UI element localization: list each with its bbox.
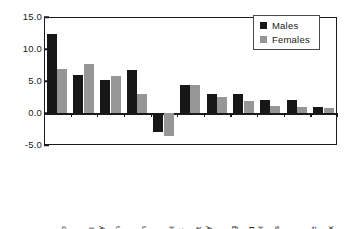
x-tick-label: Tobacco bbox=[60, 226, 69, 229]
x-tick-label: Illicit drugs bbox=[273, 226, 282, 229]
x-tick-label: Alcohol harm bbox=[140, 226, 149, 229]
y-tick-mark bbox=[44, 16, 49, 18]
bar-males bbox=[260, 100, 270, 113]
legend-item-females: Females bbox=[260, 35, 310, 45]
bar-females bbox=[57, 69, 67, 113]
y-axis: -5.00.05.010.015.0 bbox=[0, 0, 42, 229]
bar-males bbox=[73, 75, 83, 113]
bar-males bbox=[47, 34, 57, 113]
bar-females bbox=[137, 94, 147, 113]
bar-males bbox=[153, 113, 163, 132]
bar-males bbox=[180, 85, 190, 113]
x-tick-mark bbox=[177, 113, 178, 117]
bar-males bbox=[127, 70, 137, 113]
bar-females bbox=[190, 85, 200, 113]
bar-females bbox=[297, 107, 307, 113]
y-tick-label: 5.0 bbox=[6, 76, 42, 86]
bar-females bbox=[164, 113, 174, 136]
x-axis-labels: TobaccoPhysicalinactivityHypertensionAlc… bbox=[44, 150, 337, 229]
x-tick-label: Occupationalillness/disease bbox=[301, 226, 318, 229]
x-tick-mark bbox=[284, 113, 285, 117]
x-tick-mark bbox=[151, 113, 152, 117]
bar-chart: -5.00.05.010.015.0 TobaccoPhysicalinacti… bbox=[0, 0, 347, 229]
bar-group bbox=[177, 17, 204, 145]
legend-label-males: Males bbox=[272, 21, 298, 31]
x-tick-mark bbox=[97, 113, 98, 117]
x-tick-mark bbox=[230, 113, 231, 117]
x-tick-label: High bloodcholesterol bbox=[248, 226, 265, 229]
y-tick-label: 10.0 bbox=[6, 44, 42, 54]
bar-group bbox=[97, 17, 124, 145]
bar-females bbox=[84, 64, 94, 113]
x-tick-label: Overweightand obesity bbox=[195, 226, 212, 229]
legend-label-females: Females bbox=[272, 35, 310, 45]
bar-group bbox=[71, 17, 98, 145]
bar-group bbox=[151, 17, 178, 145]
y-tick-label: -5.0 bbox=[6, 140, 42, 150]
x-tick-mark bbox=[124, 113, 125, 117]
bar-males bbox=[233, 94, 243, 113]
legend-item-males: Males bbox=[260, 21, 310, 31]
x-tick-label: Lack offruit/veg bbox=[221, 226, 238, 229]
x-tick-label: Physicalinactivity bbox=[88, 226, 105, 229]
y-tick-mark bbox=[44, 80, 49, 82]
x-tick-mark bbox=[204, 113, 205, 117]
bar-males bbox=[313, 107, 323, 113]
bar-males bbox=[100, 80, 110, 113]
x-tick-mark bbox=[310, 113, 311, 117]
bar-females bbox=[244, 101, 254, 113]
legend: Males Females bbox=[253, 15, 320, 50]
x-tick-mark bbox=[337, 113, 338, 117]
y-tick-label: 0.0 bbox=[6, 108, 42, 118]
bar-females bbox=[270, 106, 280, 113]
bar-females bbox=[324, 108, 334, 113]
x-tick-label: Hypertension bbox=[114, 226, 123, 229]
bar-group bbox=[204, 17, 231, 145]
x-tick-mark bbox=[71, 113, 72, 117]
y-tick-label: 15.0 bbox=[6, 12, 42, 22]
y-tick-mark bbox=[44, 144, 49, 146]
legend-swatch-males-icon bbox=[260, 22, 267, 29]
x-tick-label: Alcoholbenefit bbox=[168, 226, 185, 229]
y-tick-mark bbox=[44, 112, 49, 114]
bar-females bbox=[217, 97, 227, 113]
legend-swatch-females-icon bbox=[260, 36, 267, 43]
x-tick-label: Unsafe sex bbox=[327, 226, 336, 229]
bar-females bbox=[111, 76, 121, 113]
x-tick-mark bbox=[257, 113, 258, 117]
bar-group bbox=[124, 17, 151, 145]
y-tick-mark bbox=[44, 48, 49, 50]
bar-males bbox=[207, 94, 217, 113]
bar-males bbox=[287, 100, 297, 113]
